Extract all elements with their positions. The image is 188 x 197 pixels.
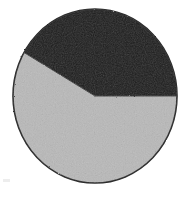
pie-chart-svg — [0, 0, 188, 197]
pie-grain-texture — [0, 0, 188, 197]
scan-speckle — [3, 179, 10, 182]
pie-chart-figure — [0, 0, 188, 197]
